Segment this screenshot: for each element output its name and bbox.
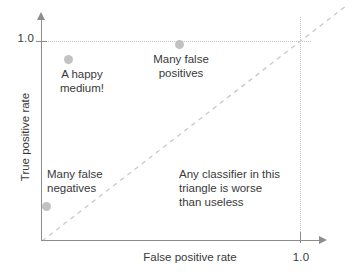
y-axis-tick-1.0 [36,41,47,42]
x-axis-arrow-icon [319,236,327,244]
y-axis-tick-label-1.0: 1.0 [8,32,34,44]
data-point-a-happy-medium [64,55,73,64]
data-point-many-false-negatives [42,202,51,211]
annotation-many-false-positives: Many false positives [143,52,219,80]
x-axis-tick-1.0 [300,232,301,243]
data-point-many-false-positives [175,40,184,49]
roc-chart: 1.0 1.0 False positive rate True positiv… [0,0,358,277]
annotation-worse-than-useless: Any classifier in this triangle is worse… [179,167,299,209]
x-axis-tick-label-1.0: 1.0 [286,251,316,263]
y-axis-arrow-icon [37,12,45,20]
y-axis-title: True positive rate [19,77,31,197]
gridline-vertical-1.0 [300,17,302,236]
annotation-a-happy-medium: A happy medium! [46,67,118,95]
annotation-many-false-negatives: Many false negatives [47,167,127,195]
x-axis-title: False positive rate [110,251,270,263]
x-axis-line [42,240,322,241]
